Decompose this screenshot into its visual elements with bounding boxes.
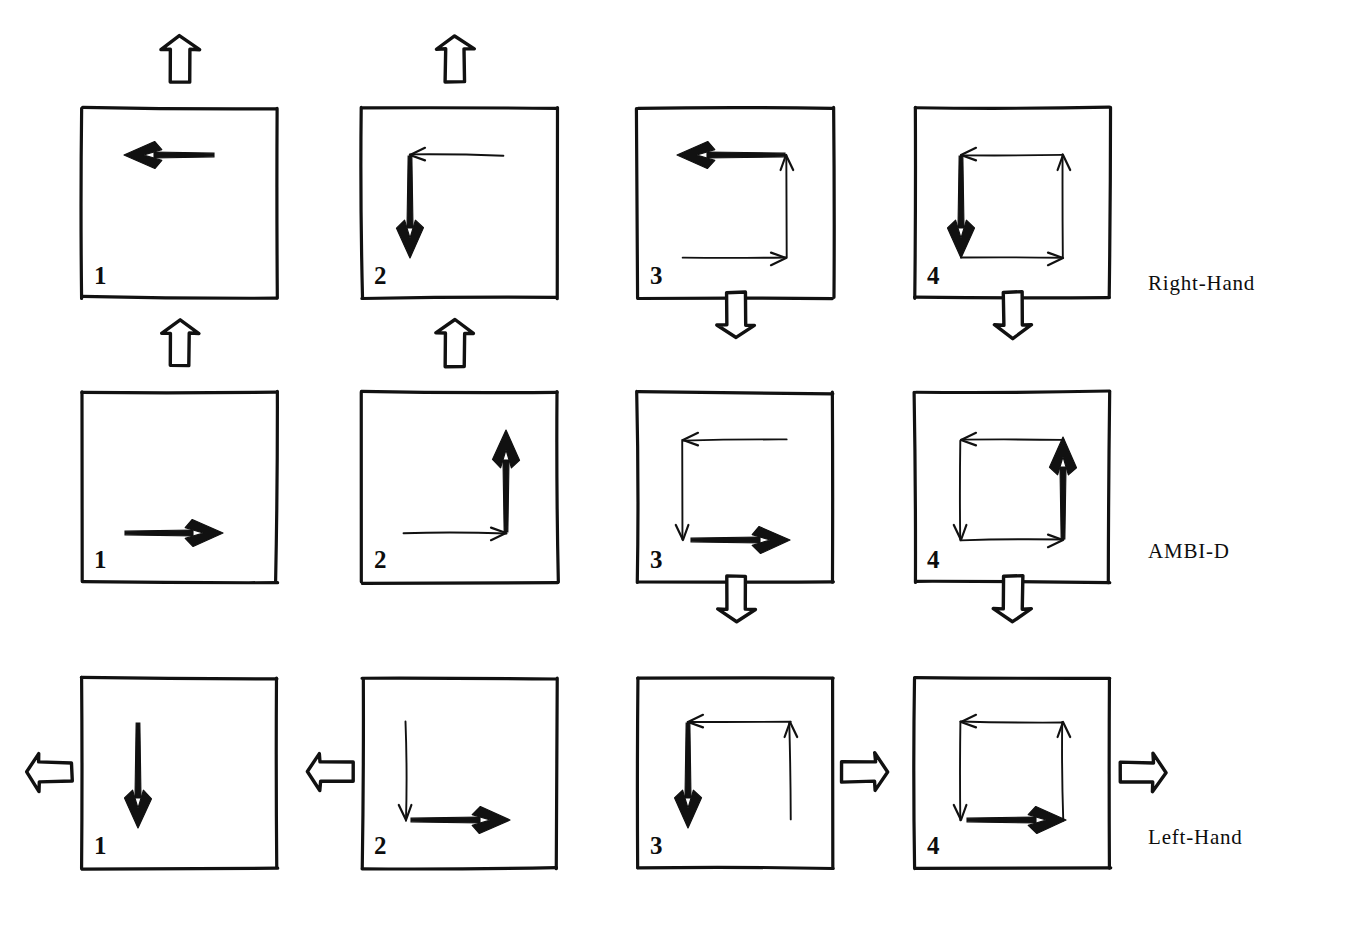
row-right-hand-panel-1-edge-left [81,108,82,298]
row-right-hand-panel-1-edge-top [83,107,277,109]
row-ambi-d-panel-2-thin-right-arrow-0-shaft [404,533,507,534]
row-right-hand-panel-4-thin-right-arrow-0-head [1048,253,1063,266]
row-ambi-d-panel-1-edge-top [82,392,277,393]
row-ambi-d-panel-3-thin-left-arrow-0-shaft [683,439,786,440]
row-right-hand-panel-4-thick-down-arrow-3 [948,156,975,258]
row-right-hand-panel-1-edge-bottom [82,296,277,298]
row-left-hand-panel-1: 1 [81,677,277,869]
row-left-hand-panel-3-group[interactable]: 3 [637,678,833,869]
row-ambi-d-panel-3-thin-left-arrow-0-head [683,433,698,446]
row-left-hand-panel-2: 2 [362,678,557,869]
row-ambi-d-panel-1-top-transition-arrow[interactable] [162,320,199,366]
row-ambi-d-panel-1-edge-bottom [82,582,277,583]
row-left-hand-panel-3-thin-up-arrow-0-shaft [789,723,790,820]
row-left-hand-panel-4-side-transition-arrow-outline [1120,753,1166,792]
row-ambi-d-panel-2-top-transition-arrow-outline [436,320,474,367]
row-left-hand-panel-3-side-transition-arrow[interactable] [842,753,888,791]
row-right-hand-panel-1: 1 [81,107,277,298]
row-right-hand-panel-1-thick-left-arrow-0-shaft [154,152,214,158]
row-right-hand-panel-3-thin-up-arrow-1 [781,155,794,258]
row-left-hand-panel-4-thin-left-arrow-1-shaft [960,722,1062,723]
row-right-hand-panel-3-group[interactable]: 3 [636,107,834,298]
row-right-hand-panel-4-thin-right-arrow-0 [961,253,1063,266]
row-ambi-d-panel-4-thin-right-arrow-2 [961,535,1064,548]
row-right-hand-panel-3-number: 3 [650,262,663,289]
row-left-hand-panel-2-side-transition-arrow[interactable] [307,754,353,791]
row-left-hand-panel-1-side-transition-arrow[interactable] [27,754,73,792]
row-right-hand-panel-2-thick-down-arrow-1-shaft [407,156,413,228]
row-left-hand-panel-3-thin-up-arrow-0-head [785,722,798,737]
row-label-right-hand: Right-Hand [1148,271,1255,296]
row-left-hand-panel-2-number: 2 [374,832,387,859]
row-left-hand-panel-2-side-transition-arrow-outline [307,754,353,791]
row-left-hand-panel-4-group[interactable]: 4 [914,678,1111,869]
row-left-hand-panel-2-thick-right-arrow-1 [411,807,510,834]
row-left-hand-panel-4-thick-right-arrow-3 [967,807,1066,834]
row-ambi-d-panel-4: 4 [914,391,1110,583]
row-left-hand-panel-3-thin-up-arrow-0 [785,722,798,819]
row-right-hand-panel-2-top-transition-arrow[interactable] [436,36,474,82]
row-ambi-d-panel-4-edge-top [916,391,1110,392]
row-left-hand-panel-4-thin-left-arrow-1 [960,715,1062,728]
row-right-hand-panel-3-thick-left-arrow-2 [677,142,785,169]
row-left-hand-panel-3-edge-left [637,678,638,867]
row-left-hand-panel-1-group[interactable]: 1 [81,677,277,869]
row-left-hand-panel-4-edge-left [914,679,915,869]
row-right-hand-panel-2-top-transition-arrow-outline [436,36,474,82]
row-ambi-d-panel-3-group[interactable]: 3 [637,391,834,582]
row-ambi-d-panel-2-edge-bottom [362,583,557,584]
row-left-hand-panel-1-thick-down-arrow-0-shaft [135,723,141,798]
row-ambi-d-panel-2-thin-right-arrow-0 [404,528,507,541]
row-ambi-d-panel-4-number: 4 [927,546,940,573]
row-left-hand: 1234 [27,677,1166,869]
row-ambi-d-panel-2: 2 [361,391,558,583]
row-left-hand-panel-4-number: 4 [927,832,940,859]
row-left-hand-panel-2-edge-left [362,678,363,867]
row-left-hand-panel-4-thin-up-arrow-0 [1058,722,1071,821]
row-right-hand-panel-4-edge-top [915,107,1109,108]
row-ambi-d-panel-3-number: 3 [650,546,663,573]
row-right-hand-panel-2-thin-left-arrow-0-shaft [410,154,504,155]
row-right-hand-panel-1-top-transition-arrow-outline [161,36,200,83]
row-left-hand-panel-3-thin-left-arrow-1 [688,715,791,728]
row-ambi-d-panel-2-number: 2 [374,546,387,573]
row-right-hand-panel-4-thick-down-arrow-3-shaft [958,156,964,228]
row-ambi-d-panel-4-edge-right [1108,392,1109,583]
row-ambi-d-panel-2-group[interactable]: 2 [361,391,558,583]
row-right-hand-panel-3-edge-top [638,108,832,109]
row-right-hand-panel-2-edge-top [363,108,557,109]
row-right-hand-panel-2-number: 2 [374,262,387,289]
row-right-hand-panel-4-edge-right [1109,107,1110,297]
row-label-ambi-d: AMBI-D [1148,539,1230,564]
row-left-hand-panel-4-side-transition-arrow[interactable] [1120,753,1166,792]
row-ambi-d-panel-3-edge-left [637,391,638,582]
row-ambi-d-panel-1-thick-right-arrow-0 [125,520,223,547]
row-ambi-d-panel-1: 1 [82,391,278,582]
row-ambi-d-panel-4-thick-up-arrow-3 [1050,437,1077,539]
figure-root: 123412341234 Right-Hand AMBI-D Left-Hand [0,0,1350,933]
row-ambi-d-panel-2-top-transition-arrow[interactable] [436,320,474,367]
row-left-hand-panel-1-thick-down-arrow-0 [125,723,152,828]
row-right-hand-panel-1-top-transition-arrow[interactable] [161,36,200,83]
row-ambi-d-panel-3-thick-right-arrow-2 [691,527,790,554]
row-left-hand-panel-2-thin-down-arrow-0-shaft [405,721,406,820]
row-ambi-d-panel-3: 3 [637,391,834,582]
row-left-hand-panel-4-thin-down-arrow-2 [954,722,967,821]
row-ambi-d-panel-1-group[interactable]: 1 [82,391,278,582]
row-left-hand-panel-3-thick-down-arrow-2-shaft [685,723,691,798]
row-ambi-d-panel-4-group[interactable]: 4 [914,391,1110,583]
row-ambi-d-panel-1-number: 1 [94,546,107,573]
row-right-hand-panel-3-edge-right [834,107,835,297]
row-right-hand-panel-3: 3 [636,107,834,298]
row-left-hand-panel-3-edge-bottom [638,867,833,868]
row-ambi-d-panel-2-thick-up-arrow-1-shaft [503,460,509,532]
row-right-hand-panel-4-group[interactable]: 4 [915,107,1111,298]
row-ambi-d-panel-2-edge-right [557,392,559,582]
row-right-hand-panel-1-group[interactable]: 1 [81,107,277,298]
row-right-hand-panel-4-number: 4 [927,262,940,289]
row-left-hand-panel-2-group[interactable]: 2 [362,678,557,869]
row-ambi-d-panel-4-edge-left [914,392,915,582]
row-left-hand-panel-1-side-transition-arrow-outline [27,754,73,792]
row-right-hand-panel-2-group[interactable]: 2 [361,107,558,298]
row-ambi-d-panel-1-edge-right [276,391,278,582]
